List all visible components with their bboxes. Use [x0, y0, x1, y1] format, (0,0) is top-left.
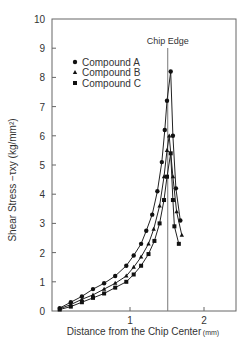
- y-axis-label: Shear Stress −τxy (kg/mm²): [7, 118, 18, 241]
- y-tick-label: 2: [39, 248, 45, 259]
- y-tick-label: 6: [39, 131, 45, 142]
- legend: Compound ACompound BCompound C: [73, 57, 141, 89]
- x-tick-label: 1: [127, 315, 133, 326]
- x-axis-ticks: 12: [127, 307, 207, 326]
- series-compound-c: [58, 151, 181, 311]
- x-axis-label: Distance from the Chip Center: [67, 326, 202, 337]
- y-tick-label: 8: [39, 72, 45, 83]
- plot-frame: [52, 19, 236, 311]
- y-tick-label: 1: [39, 277, 45, 288]
- y-tick-label: 5: [39, 160, 45, 171]
- shear-stress-chart: 012345678910 12 Shear Stress −τxy (kg/mm…: [0, 0, 249, 350]
- legend-item: Compound B: [73, 67, 141, 78]
- x-tick-label: 2: [201, 315, 207, 326]
- y-tick-label: 4: [39, 189, 45, 200]
- chip-edge-label: Chip Edge: [147, 36, 189, 46]
- y-tick-label: 0: [39, 306, 45, 317]
- legend-item: Compound A: [73, 57, 140, 68]
- legend-item: Compound C: [73, 78, 141, 89]
- x-axis-unit: (mm): [203, 329, 219, 337]
- y-tick-label: 7: [39, 102, 45, 113]
- y-axis-ticks: 012345678910: [34, 14, 56, 317]
- y-tick-label: 10: [34, 14, 46, 25]
- series-compound-b: [58, 133, 185, 310]
- legend-label: Compound B: [82, 67, 141, 78]
- series-compound-a: [58, 69, 183, 310]
- y-tick-label: 9: [39, 43, 45, 54]
- legend-label: Compound A: [82, 57, 140, 68]
- series-layer: [58, 69, 185, 311]
- legend-label: Compound C: [82, 78, 141, 89]
- y-tick-label: 3: [39, 218, 45, 229]
